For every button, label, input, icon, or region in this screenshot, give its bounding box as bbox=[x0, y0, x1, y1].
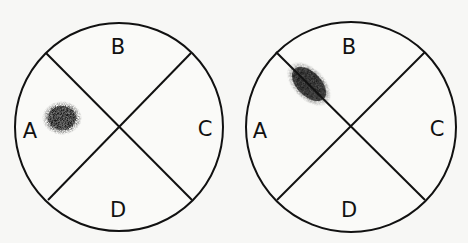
right-label-right: C bbox=[430, 117, 445, 141]
left-label-right: C bbox=[198, 117, 213, 141]
left-label-left: A bbox=[23, 119, 38, 143]
left-label-bottom: D bbox=[110, 198, 126, 222]
left-plate: B A C D bbox=[15, 23, 223, 231]
left-spot-core bbox=[48, 106, 76, 130]
right-plate: B A C D bbox=[246, 22, 456, 232]
right-label-left: A bbox=[253, 119, 268, 143]
right-label-top: B bbox=[342, 35, 356, 59]
right-label-bottom: D bbox=[341, 198, 357, 222]
diagram-canvas: B A C D B A C D bbox=[0, 0, 468, 243]
left-label-top: B bbox=[111, 35, 125, 59]
